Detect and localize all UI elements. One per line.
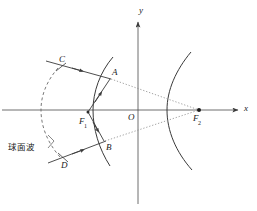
ray-f1-to-a — [88, 79, 110, 112]
point-label-f1: F1 — [79, 117, 88, 128]
point-label-a: A — [112, 68, 118, 77]
spherical-wave-label: 球面波 — [8, 143, 35, 152]
ray-f1-to-b-arrow — [93, 122, 98, 131]
ray-d-to-b — [48, 141, 106, 163]
wavefront-dashed-arc — [41, 68, 60, 157]
point-f1-dot — [87, 111, 90, 114]
y-axis-label: y — [139, 6, 143, 15]
dotted-a-to-f2 — [111, 79, 199, 110]
ray-f1-to-a-arrow — [95, 93, 101, 102]
ray-c-to-a — [46, 61, 111, 79]
point-label-f2: F2 — [193, 114, 202, 125]
ray-c-to-a-arrow — [72, 68, 82, 71]
diagram-canvas — [0, 0, 257, 211]
ray-d-to-b-arrow — [72, 150, 83, 154]
dotted-b-to-f2 — [105, 110, 199, 141]
point-label-c: C — [59, 55, 65, 64]
point-label-d: D — [61, 161, 68, 170]
physics-optics-diagram: y x O A B C D F1 F2 球面波 — [0, 0, 257, 211]
point-f2-dot — [197, 108, 201, 112]
origin-label: O — [128, 113, 135, 122]
point-label-b: B — [106, 143, 112, 152]
f1-subscript: 1 — [84, 123, 87, 129]
ray-f1-to-b — [88, 112, 104, 141]
right-mirror-arc — [167, 52, 192, 170]
f2-subscript: 2 — [198, 120, 201, 126]
x-axis-label: x — [244, 104, 248, 113]
